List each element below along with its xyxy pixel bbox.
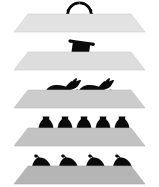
layered-plane-stack: Laurel wreath	[0, 0, 159, 187]
plane-2-surface	[14, 52, 145, 70]
layer-scroll: Rolled scroll	[0, 38, 159, 78]
plane-3-surface	[14, 90, 145, 108]
plane-4	[0, 114, 159, 154]
layer-vases: Amphora vase	[0, 114, 159, 154]
plane-4-surface	[14, 128, 145, 146]
plane-3	[0, 76, 159, 116]
plane-1-surface	[14, 14, 145, 32]
layer-helmets: Plumed helmet with spear	[0, 152, 159, 187]
plane-5	[0, 152, 159, 187]
layer-laurel-wreath: Laurel wreath	[0, 0, 159, 40]
plane-2	[0, 38, 159, 78]
plane-1	[0, 0, 159, 40]
layer-horses: Galloping horse	[0, 76, 159, 116]
plane-5-surface	[14, 166, 145, 184]
